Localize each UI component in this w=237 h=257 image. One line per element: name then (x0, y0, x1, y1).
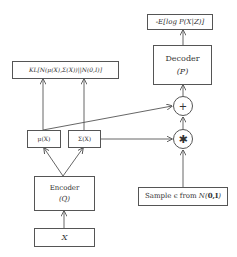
arrow-encoder-to-mu (44, 148, 63, 176)
decoder-sublabel: (P) (177, 67, 189, 76)
sample-close: ) (218, 192, 221, 200)
reconstruction-loss-box: -E[log P(X|Z)] (147, 14, 213, 30)
arrow-mu-to-plus (43, 106, 172, 130)
sample-prefix: Sample ϵ from (145, 192, 199, 200)
sample-dist: N( (199, 192, 208, 200)
plus-icon: + (179, 101, 187, 112)
mu-box: μ(X) (27, 130, 61, 148)
plus-operator-node: + (173, 96, 193, 116)
input-x-label: X (62, 233, 68, 242)
encoder-box: Encoder (Q) (34, 176, 95, 211)
encoder-label: Encoder (50, 184, 80, 192)
multiply-operator-node: ✱ (173, 129, 193, 149)
multiply-icon: ✱ (178, 133, 187, 146)
mu-label: μ(X) (38, 136, 51, 143)
sigma-box: Σ(X) (68, 130, 101, 148)
input-x-box: X (34, 228, 95, 247)
connector-lines (0, 0, 237, 257)
kl-divergence-box: KL[N(μ(X),Σ(X))||N(0,I)] (12, 61, 119, 79)
kl-divergence-label: KL[N(μ(X),Σ(X))||N(0,I)] (29, 67, 102, 74)
arrow-encoder-to-sigma (63, 148, 83, 176)
decoder-label: Decoder (165, 54, 199, 63)
reconstruction-loss-label: -E[log P(X|Z)] (156, 18, 204, 26)
sample-params: 0,I (208, 192, 219, 200)
decoder-box: Decoder (P) (153, 45, 212, 85)
sigma-label: Σ(X) (78, 136, 91, 143)
encoder-sublabel: (Q) (59, 195, 70, 203)
sample-epsilon-box: Sample ϵ from N(0,I) (138, 187, 228, 206)
